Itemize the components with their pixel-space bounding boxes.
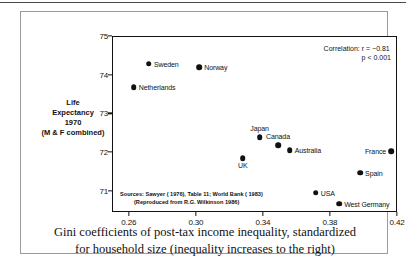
caption-line-1: Gini coefficients of post-tax income ine… bbox=[21, 224, 389, 241]
data-point[interactable] bbox=[287, 147, 293, 153]
y-axis-title-line1: Life bbox=[35, 98, 111, 108]
data-point[interactable] bbox=[336, 201, 342, 207]
y-axis-tick-mark bbox=[108, 35, 112, 36]
data-point[interactable] bbox=[388, 148, 394, 154]
data-point-label: UK bbox=[238, 162, 248, 169]
data-point-label: Netherlands bbox=[139, 84, 176, 91]
sources-note: Sources: Sawyer ( 1976), Table 11; World… bbox=[120, 190, 263, 206]
data-point[interactable] bbox=[146, 61, 152, 67]
correlation-p-text: p < 0.001 bbox=[324, 53, 391, 62]
data-point-label: West Germany bbox=[344, 200, 389, 207]
y-axis-tick-mark bbox=[108, 74, 112, 75]
x-axis-tick-mark bbox=[195, 212, 196, 216]
y-axis-tick-mark bbox=[108, 113, 112, 114]
y-axis-title-line3: 1970 bbox=[35, 118, 111, 128]
x-axis-tick-mark bbox=[262, 212, 263, 216]
data-point[interactable] bbox=[240, 155, 246, 161]
data-point-label: USA bbox=[321, 189, 335, 196]
data-point[interactable] bbox=[196, 64, 202, 70]
data-point-label: Norway bbox=[204, 63, 227, 70]
figure-caption: Gini coefficients of post-tax income ine… bbox=[21, 224, 389, 257]
y-axis-title-line4: (M & F combined) bbox=[35, 128, 111, 138]
correlation-annotation: Correlation: r = −0.81 p < 0.001 bbox=[324, 44, 391, 63]
data-point[interactable] bbox=[313, 190, 319, 196]
caption-line-2: for household size (inequality increases… bbox=[21, 241, 389, 258]
data-point-label: Sweden bbox=[154, 60, 179, 67]
sources-line-2: (Reproduced from R.G. Wilkinson 1986) bbox=[120, 198, 263, 206]
data-point[interactable] bbox=[257, 135, 263, 141]
data-point[interactable] bbox=[131, 84, 137, 90]
data-point[interactable] bbox=[275, 143, 281, 149]
x-axis-tick-mark bbox=[396, 212, 397, 216]
x-axis-tick-mark bbox=[128, 212, 129, 216]
data-point-label: Canada bbox=[266, 133, 290, 140]
data-point-label: Japan bbox=[250, 125, 269, 132]
x-axis-tick-mark bbox=[329, 212, 330, 216]
correlation-r-text: Correlation: r = −0.81 bbox=[324, 44, 391, 53]
scatter-plot-area: Correlation: r = −0.81 p < 0.001 Sources… bbox=[112, 36, 397, 212]
data-point-label: Spain bbox=[365, 169, 382, 176]
data-point-label: France bbox=[365, 148, 386, 155]
sources-line-1: Sources: Sawyer ( 1976), Table 11; World… bbox=[120, 190, 263, 198]
figure-container: Life Expectancy 1970 (M & F combined) Co… bbox=[20, 11, 388, 254]
data-point-label: Australia bbox=[295, 147, 321, 154]
y-axis-tick-mark bbox=[108, 190, 112, 191]
page-top-rule bbox=[0, 2, 406, 3]
y-axis-tick-mark bbox=[108, 151, 112, 152]
data-point[interactable] bbox=[357, 170, 363, 176]
